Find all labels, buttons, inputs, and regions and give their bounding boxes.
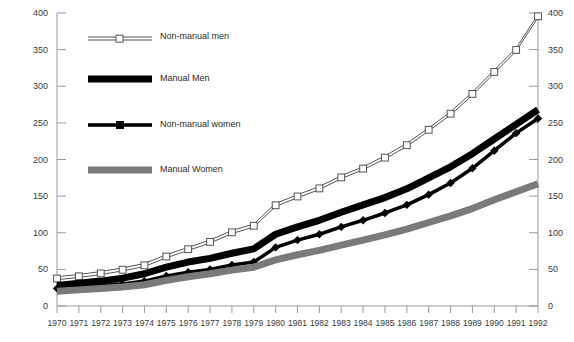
y-axis-left-tick-label: 250 — [22, 118, 48, 128]
marker-open-square — [229, 229, 236, 236]
y-axis-left-tick-label: 50 — [22, 264, 48, 274]
marker-open-square — [316, 185, 323, 192]
legend-marker-filled-square — [116, 121, 124, 129]
marker-open-square — [491, 69, 498, 76]
y-axis-left-tick-label: 100 — [22, 228, 48, 238]
legend-marks — [88, 35, 152, 173]
marker-open-square — [75, 273, 82, 280]
marker-filled-diamond — [359, 216, 367, 224]
marker-open-square — [119, 266, 126, 273]
legend-bar — [88, 76, 152, 83]
y-axis-right-tick-label: 350 — [548, 45, 574, 55]
y-axis-left-tick-label: 350 — [22, 45, 48, 55]
y-axis-right-tick-label: 50 — [548, 264, 574, 274]
legend-item-label: Non-manual women — [160, 119, 241, 129]
legend-bar — [88, 167, 152, 174]
chart-container: 400350300250200150100500 400350300250200… — [0, 0, 574, 342]
marker-open-square — [185, 246, 192, 253]
series-line-non_manual_women — [57, 118, 538, 288]
marker-open-square — [338, 174, 345, 181]
y-axis-left-tick-label: 150 — [22, 191, 48, 201]
marker-open-square — [163, 253, 170, 260]
y-axis-left-tick-label: 0 — [22, 301, 48, 311]
marker-open-square — [425, 126, 432, 133]
y-axis-right-tick-label: 400 — [548, 8, 574, 18]
series-group — [53, 13, 542, 293]
marker-open-square — [272, 202, 279, 209]
x-axis-tick-label: 1992 — [524, 318, 552, 328]
marker-filled-diamond — [315, 230, 323, 238]
marker-open-square — [535, 13, 542, 20]
marker-open-square — [294, 193, 301, 200]
marker-open-square — [97, 270, 104, 277]
chart-plot-area — [0, 0, 574, 342]
marker-open-square — [54, 275, 61, 282]
marker-open-square — [141, 262, 148, 269]
y-axis-right-tick-label: 150 — [548, 191, 574, 201]
legend-item-label: Manual Men — [160, 73, 210, 83]
marker-open-square — [207, 238, 214, 245]
y-axis-right-tick-label: 250 — [548, 118, 574, 128]
marker-open-square — [513, 47, 520, 54]
marker-filled-diamond — [293, 236, 301, 244]
legend-mark-2 — [88, 121, 152, 129]
marker-filled-diamond — [337, 223, 345, 231]
legend-marker-open-square — [116, 35, 123, 42]
marker-open-square — [250, 222, 257, 229]
y-axis-left-tick-label: 300 — [22, 81, 48, 91]
legend-mark-0 — [88, 35, 152, 42]
y-axis-right-tick-label: 200 — [548, 155, 574, 165]
y-axis-right-tick-label: 0 — [548, 301, 574, 311]
y-axis-right-tick-label: 100 — [548, 228, 574, 238]
legend-item-label: Non-manual men — [160, 31, 229, 41]
marker-open-square — [447, 110, 454, 117]
legend-item-label: Manual Women — [160, 164, 223, 174]
marker-open-square — [469, 91, 476, 98]
legend-mark-1 — [88, 76, 152, 83]
y-axis-left-tick-label: 200 — [22, 155, 48, 165]
axes-group — [57, 13, 538, 313]
marker-open-square — [382, 154, 389, 161]
y-axis-right-tick-label: 300 — [548, 81, 574, 91]
marker-open-square — [360, 165, 367, 172]
marker-open-square — [403, 142, 410, 149]
legend-mark-3 — [88, 167, 152, 174]
y-axis-left-tick-label: 400 — [22, 8, 48, 18]
